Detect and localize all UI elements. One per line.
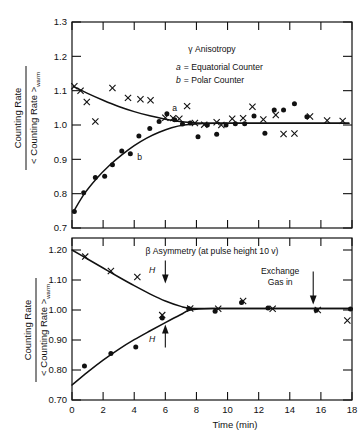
fit-curve-b-fit bbox=[74, 123, 349, 211]
data-point-dot bbox=[196, 134, 201, 139]
fit-curve-H-down-fit bbox=[72, 250, 352, 309]
data-point-cross bbox=[147, 97, 153, 103]
field-arrowhead-down bbox=[162, 275, 169, 284]
data-point-cross bbox=[260, 116, 266, 122]
x-tick-labels-bottom: 024681012141618 bbox=[69, 404, 357, 415]
data-point-dot bbox=[272, 107, 277, 112]
exchange-gas-line2: Gas in bbox=[268, 277, 293, 287]
data-point-dot bbox=[205, 123, 210, 128]
data-point-dot bbox=[136, 133, 141, 138]
fit-curves-top bbox=[74, 87, 349, 212]
x-tick-label: 4 bbox=[132, 404, 137, 415]
data-point-dot bbox=[133, 344, 138, 349]
y-tick-label: 0.90 bbox=[49, 334, 68, 345]
axis-ticks-bottom bbox=[72, 238, 352, 400]
x-tick-label: 10 bbox=[222, 404, 233, 415]
field-label-field-up: H bbox=[149, 334, 156, 344]
data-point-cross bbox=[273, 112, 279, 118]
x-axis-label: Time (min) bbox=[212, 419, 257, 430]
y-tick-label: 1.3 bbox=[54, 16, 67, 27]
y-tick-label: 0.80 bbox=[49, 364, 68, 375]
data-point-cross bbox=[249, 104, 255, 110]
data-point-dot bbox=[239, 300, 244, 305]
panel-gamma-anisotropy: 0.70.80.91.01.11.21.3 ab γ Anisotropy a=… bbox=[54, 16, 352, 233]
data-point-dot bbox=[186, 306, 191, 311]
data-point-dot bbox=[119, 149, 124, 154]
data-point-cross bbox=[229, 116, 235, 122]
y-tick-label: 0.7 bbox=[54, 222, 67, 233]
data-point-cross bbox=[109, 85, 115, 91]
data-point-cross bbox=[291, 130, 297, 136]
data-point-dot bbox=[348, 307, 353, 312]
data-point-dot bbox=[188, 120, 193, 125]
data-points-bottom bbox=[82, 254, 353, 369]
data-points-top bbox=[71, 83, 346, 214]
data-point-cross bbox=[344, 317, 350, 323]
data-point-dot bbox=[102, 174, 107, 179]
data-point-cross bbox=[134, 274, 140, 280]
x-tick-label: 14 bbox=[284, 404, 295, 415]
data-point-dot bbox=[266, 305, 271, 310]
data-point-dot bbox=[214, 132, 219, 137]
y-axis-numerator-top: Counting Rate bbox=[12, 88, 23, 149]
x-tick-label: 18 bbox=[347, 404, 358, 415]
exchange-gas-line1: Exchange bbox=[261, 266, 299, 276]
legend-top: a= Equatorial Counter b= Polar Counter bbox=[176, 62, 263, 85]
y-denominator-sub-top: warm bbox=[35, 72, 41, 88]
exchange-gas-arrowhead bbox=[310, 296, 317, 305]
y-tick-label: 0.70 bbox=[49, 394, 68, 405]
y-tick-label: 1.1 bbox=[54, 85, 67, 96]
data-point-dot bbox=[213, 309, 218, 314]
legend-key-a: a bbox=[176, 62, 181, 72]
field-arrowhead-up bbox=[162, 325, 169, 334]
data-point-dot bbox=[128, 151, 133, 156]
figure-svg: Counting Rate < Counting Rate >warm Coun… bbox=[0, 0, 364, 436]
field-label-field-down: H bbox=[149, 265, 156, 275]
legend-entry-b: b= Polar Counter bbox=[176, 75, 244, 85]
y-tick-label: 1.00 bbox=[49, 304, 68, 315]
y-tick-label: 0.9 bbox=[54, 154, 67, 165]
data-point-dot bbox=[172, 117, 177, 122]
y-denominator-text-bottom: < Counting Rate > bbox=[38, 298, 49, 376]
data-point-cross bbox=[84, 99, 90, 105]
x-tick-label: 8 bbox=[194, 404, 199, 415]
data-point-dot bbox=[164, 111, 169, 116]
y-tick-labels-bottom: 0.700.800.901.001.101.20 bbox=[49, 244, 68, 405]
y-tick-label: 1.2 bbox=[54, 51, 67, 62]
y-axis-label-top: Counting Rate < Counting Rate >warm bbox=[12, 66, 41, 170]
data-point-dot bbox=[292, 101, 297, 106]
fit-curves-bottom bbox=[72, 250, 352, 385]
x-tick-label: 6 bbox=[163, 404, 168, 415]
data-point-dot bbox=[224, 123, 229, 128]
y-tick-label: 0.8 bbox=[54, 188, 67, 199]
data-point-cross bbox=[137, 96, 143, 102]
data-point-dot bbox=[314, 308, 319, 313]
panel-title-beta: β Asymmetry (at pulse height 10 v) bbox=[146, 246, 279, 256]
y-axis-denominator-bottom: < Counting Rate >warm bbox=[38, 284, 51, 376]
legend-label-b: = Polar Counter bbox=[184, 75, 245, 85]
panel-beta-asymmetry: 0.700.800.901.001.101.20 024681012141618… bbox=[49, 238, 358, 430]
panel-title-gamma: γ Anisotropy bbox=[188, 44, 236, 54]
figure-container: Counting Rate < Counting Rate >warm Coun… bbox=[0, 0, 364, 436]
data-point-cross bbox=[125, 95, 131, 101]
legend-entry-a: a= Equatorial Counter bbox=[176, 62, 263, 72]
x-tick-label: 12 bbox=[253, 404, 264, 415]
legend-key-b: b bbox=[176, 75, 181, 85]
y-tick-label: 1.10 bbox=[49, 274, 68, 285]
data-point-dot bbox=[242, 121, 247, 126]
data-point-dot bbox=[180, 121, 185, 126]
x-tick-label: 16 bbox=[316, 404, 327, 415]
data-point-cross bbox=[280, 131, 286, 137]
y-tick-label: 1.0 bbox=[54, 119, 67, 130]
data-point-dot bbox=[304, 114, 309, 119]
series-label-a: a bbox=[172, 103, 177, 113]
y-axis-denominator-top: < Counting Rate >warm bbox=[28, 72, 41, 164]
legend-label-a: = Equatorial Counter bbox=[184, 62, 263, 72]
data-point-dot bbox=[281, 107, 286, 112]
y-denominator-text-top: < Counting Rate > bbox=[28, 86, 39, 164]
fit-curve-H-up-fit bbox=[72, 308, 352, 385]
data-point-cross bbox=[184, 103, 190, 109]
y-denominator-sub-bottom: warm bbox=[45, 284, 51, 300]
y-axis-label-bottom: Counting Rate < Counting Rate >warm bbox=[22, 278, 51, 382]
data-point-dot bbox=[262, 131, 267, 136]
